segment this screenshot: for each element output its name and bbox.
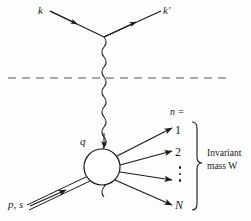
label-incoming-lepton: k <box>38 5 43 16</box>
label-outgoing-lepton: k′ <box>163 5 170 16</box>
label-final-state-1: 1 <box>175 124 181 136</box>
label-multiplicity-header: n = <box>170 107 184 117</box>
final-state-lines <box>115 128 172 205</box>
vertical-ellipsis-dots <box>178 166 182 182</box>
label-final-state-n: N <box>175 199 183 211</box>
label-mass-w: mass W <box>207 162 237 172</box>
final-state-line-3 <box>120 172 172 180</box>
ellipsis-dot <box>179 166 182 169</box>
nucleon-arrowhead <box>30 190 66 206</box>
incoming-lepton-line <box>50 11 104 37</box>
label-target-nucleon: p, s <box>8 199 23 210</box>
final-state-line-N <box>115 180 172 205</box>
outgoing-lepton-arrowhead <box>104 22 136 37</box>
outgoing-lepton-line <box>104 11 161 37</box>
label-photon-momentum: q <box>80 136 86 147</box>
diagram-canvas <box>0 0 251 221</box>
final-state-line-1 <box>117 128 172 156</box>
invariant-mass-brace <box>192 122 202 210</box>
final-state-line-2 <box>120 151 172 165</box>
label-invariant: Invariant <box>207 149 241 159</box>
label-final-state-2: 2 <box>175 146 181 158</box>
feynman-diagram-figure: k k′ q p, s n = 1 2 N Invariant mass W <box>0 0 251 221</box>
incoming-lepton-arrowhead <box>50 11 77 24</box>
hadron-blob-circle <box>84 149 120 185</box>
ellipsis-dot <box>179 173 182 176</box>
ellipsis-dot <box>179 179 182 182</box>
nucleon-double-line <box>27 176 90 210</box>
